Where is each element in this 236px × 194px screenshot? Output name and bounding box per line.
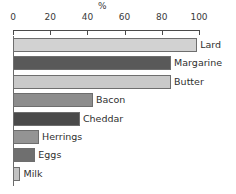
x-tick-mark-20 xyxy=(50,30,51,35)
bar-label-margarine: Margarine xyxy=(174,57,222,68)
bar-lard xyxy=(13,38,197,52)
x-tick-label-80: 80 xyxy=(156,12,167,22)
bar-butter xyxy=(13,75,171,89)
plot-area: LardMargarineButterBaconCheddarHerringsE… xyxy=(0,36,236,194)
bar-margarine xyxy=(13,56,171,70)
bar-eggs xyxy=(13,148,35,162)
x-tick-mark-0 xyxy=(13,30,14,35)
bar-label-butter: Butter xyxy=(174,76,204,87)
bar-label-herrings: Herrings xyxy=(42,131,82,142)
bar-chart: % 020406080100 LardMargarineButterBaconC… xyxy=(0,0,236,194)
bar-milk xyxy=(13,167,20,181)
x-tick-mark-100 xyxy=(199,30,200,35)
bar-label-lard: Lard xyxy=(200,39,221,50)
bar-label-bacon: Bacon xyxy=(96,94,125,105)
x-tick-mark-80 xyxy=(162,30,163,35)
x-tick-mark-60 xyxy=(125,30,126,35)
x-tick-mark-40 xyxy=(87,30,88,35)
x-tick-label-20: 20 xyxy=(44,12,55,22)
x-tick-label-60: 60 xyxy=(119,12,130,22)
bar-herrings xyxy=(13,130,39,144)
x-tick-label-40: 40 xyxy=(82,12,93,22)
axis-unit-label: % xyxy=(98,1,107,11)
bar-label-milk: Milk xyxy=(23,168,42,179)
x-axis-line xyxy=(13,30,199,31)
bar-label-eggs: Eggs xyxy=(38,149,61,160)
bar-bacon xyxy=(13,93,93,107)
x-tick-label-0: 0 xyxy=(10,12,16,22)
bar-cheddar xyxy=(13,112,80,126)
x-tick-label-100: 100 xyxy=(190,12,207,22)
bar-label-cheddar: Cheddar xyxy=(83,113,123,124)
